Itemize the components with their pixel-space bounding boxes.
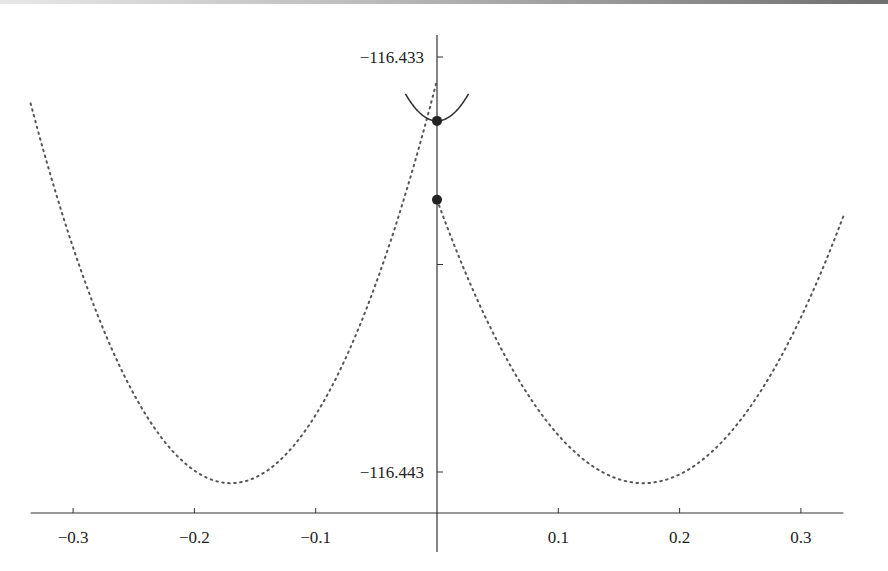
y-tick-label: −116.433 bbox=[360, 48, 424, 67]
lower-point bbox=[432, 195, 442, 205]
x-tick-label: 0.2 bbox=[669, 528, 690, 547]
left-dotted-parabola bbox=[31, 80, 437, 483]
x-tick-label: −0.3 bbox=[58, 528, 89, 547]
chart: −0.3−0.2−0.10.10.20.3−116.433−116.443 bbox=[0, 0, 888, 571]
x-tick-label: −0.1 bbox=[300, 528, 331, 547]
x-tick-label: 0.1 bbox=[548, 528, 569, 547]
upper-point bbox=[432, 116, 442, 126]
x-tick-label: 0.3 bbox=[790, 528, 811, 547]
y-tick-label: −116.443 bbox=[360, 463, 424, 482]
x-tick-label: −0.2 bbox=[179, 528, 210, 547]
axes bbox=[31, 35, 844, 552]
right-dotted-parabola bbox=[437, 200, 843, 483]
